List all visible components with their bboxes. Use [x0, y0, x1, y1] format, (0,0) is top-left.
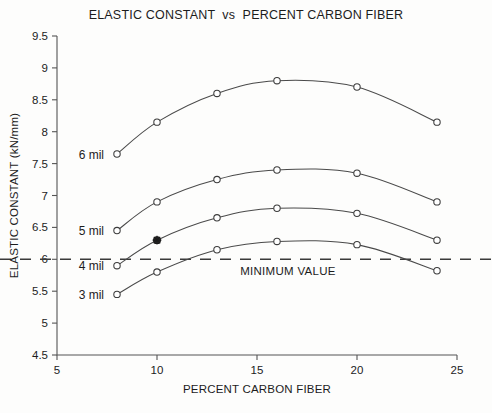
minimum-value-label: MINIMUM VALUE	[240, 265, 336, 277]
y-tick-label: 8.5	[32, 94, 48, 106]
data-point-marker	[274, 167, 280, 173]
y-axis-ticks	[52, 36, 57, 355]
series-labels-group: 6 mil5 mil4 mil3 mil	[79, 148, 104, 302]
data-point-marker	[354, 170, 360, 176]
series-line-6-mil	[117, 80, 437, 154]
data-point-marker	[114, 227, 120, 233]
x-tick-label: 25	[451, 364, 464, 376]
series-label-4-mil: 4 mil	[79, 259, 104, 273]
y-tick-label: 9.5	[32, 30, 48, 42]
data-point-marker	[214, 215, 220, 221]
highlighted-data-point-asterisk	[153, 236, 162, 245]
data-point-marker	[434, 237, 440, 243]
series-label-6-mil: 6 mil	[79, 148, 104, 162]
x-tick-label: 5	[54, 364, 60, 376]
y-tick-label: 6.5	[32, 221, 48, 233]
x-axis-tick-labels: 510152025	[54, 364, 464, 376]
data-point-marker	[354, 210, 360, 216]
y-tick-label: 4.5	[32, 349, 48, 361]
chart-canvas: ELASTIC CONSTANT vs PERCENT CARBON FIBER…	[0, 0, 492, 413]
data-point-marker	[154, 119, 160, 125]
y-tick-label: 8	[42, 126, 48, 138]
y-tick-label: 7.5	[32, 158, 48, 170]
data-point-marker	[434, 119, 440, 125]
y-axis-tick-labels: 4.555.566.577.588.599.5	[32, 30, 48, 361]
data-point-marker	[154, 199, 160, 205]
x-tick-label: 10	[151, 364, 164, 376]
data-point-marker	[114, 262, 120, 268]
data-point-marker	[274, 77, 280, 83]
x-tick-label: 15	[251, 364, 264, 376]
data-point-marker	[214, 247, 220, 253]
y-tick-label: 9	[42, 62, 48, 74]
series-label-3-mil: 3 mil	[79, 288, 104, 302]
data-point-marker	[114, 151, 120, 157]
data-point-marker	[214, 176, 220, 182]
data-point-marker	[354, 241, 360, 247]
y-tick-label: 5.5	[32, 285, 48, 297]
y-tick-label: 7	[42, 190, 48, 202]
series-label-5-mil: 5 mil	[79, 224, 104, 238]
data-point-marker	[434, 268, 440, 274]
data-series-group	[117, 80, 437, 294]
axis-lines	[57, 36, 457, 355]
data-point-marker	[214, 90, 220, 96]
data-point-marker	[274, 205, 280, 211]
y-tick-label: 5	[42, 317, 48, 329]
x-tick-label: 20	[351, 364, 364, 376]
series-line-4-mil	[117, 208, 437, 266]
data-point-marker	[114, 291, 120, 297]
data-point-marker	[274, 238, 280, 244]
x-axis-title: PERCENT CARBON FIBER	[183, 383, 331, 395]
x-axis-ticks	[57, 355, 457, 360]
line-chart-plot: 510152025 4.555.566.577.588.599.5 MINIMU…	[0, 0, 492, 413]
y-axis-title: ELASTIC CONSTANT (kN/mm)	[8, 113, 20, 278]
series-line-5-mil	[117, 169, 437, 231]
data-point-marker	[154, 269, 160, 275]
data-point-marker	[354, 84, 360, 90]
data-point-marker	[434, 199, 440, 205]
